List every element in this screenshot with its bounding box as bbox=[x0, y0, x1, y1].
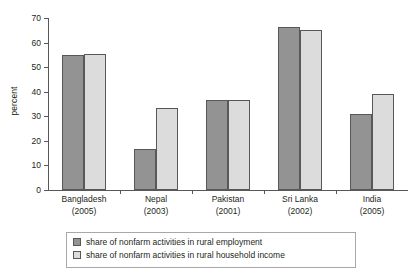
x-category-name: Bangladesh bbox=[62, 194, 107, 204]
y-tick-label: 0 bbox=[36, 186, 41, 195]
y-tick-label: 20 bbox=[32, 137, 41, 146]
x-tick-label: Sri Lanka(2002) bbox=[264, 194, 336, 217]
bar bbox=[62, 55, 84, 190]
bar-group bbox=[48, 18, 120, 190]
y-tick-label: 40 bbox=[32, 87, 41, 96]
bar bbox=[228, 100, 250, 190]
legend-item-employment: share of nonfarm activities in rural emp… bbox=[73, 237, 349, 247]
plot-area: 010203040506070 bbox=[48, 18, 408, 190]
x-category-year: (2002) bbox=[264, 206, 336, 218]
legend-swatch-icon bbox=[73, 238, 81, 246]
legend-item-household-income: share of nonfarm activities in rural hou… bbox=[73, 250, 349, 260]
y-tick-label: 70 bbox=[32, 14, 41, 23]
x-tick-label: Pakistan(2001) bbox=[192, 194, 264, 217]
chart-legend: share of nonfarm activities in rural emp… bbox=[66, 232, 356, 268]
bar bbox=[372, 94, 394, 190]
bar-chart: percent 010203040506070 Bangladesh(2005)… bbox=[0, 0, 419, 279]
x-category-name: Nepal bbox=[145, 194, 167, 204]
x-category-name: Sri Lanka bbox=[282, 194, 318, 204]
bar-group bbox=[120, 18, 192, 190]
x-category-name: Pakistan bbox=[212, 194, 245, 204]
bar bbox=[278, 27, 300, 190]
x-axis-line bbox=[48, 190, 408, 191]
bar-group bbox=[336, 18, 408, 190]
y-tick-label: 50 bbox=[32, 63, 41, 72]
legend-label: share of nonfarm activities in rural emp… bbox=[86, 237, 262, 247]
legend-swatch-icon bbox=[73, 251, 81, 259]
x-tick-label: India(2005) bbox=[336, 194, 408, 217]
legend-label: share of nonfarm activities in rural hou… bbox=[86, 250, 285, 260]
bar bbox=[206, 100, 228, 190]
bar bbox=[134, 149, 156, 190]
x-tick-label: Bangladesh(2005) bbox=[48, 194, 120, 217]
y-tick-mark bbox=[44, 190, 48, 191]
x-tick-label: Nepal(2003) bbox=[120, 194, 192, 217]
x-category-year: (2003) bbox=[120, 206, 192, 218]
y-tick-label: 30 bbox=[32, 112, 41, 121]
x-category-year: (2005) bbox=[48, 206, 120, 218]
y-tick-label: 60 bbox=[32, 38, 41, 47]
bar bbox=[84, 54, 106, 190]
bar-group bbox=[264, 18, 336, 190]
bar bbox=[350, 114, 372, 190]
x-category-name: India bbox=[363, 194, 381, 204]
bar-group bbox=[192, 18, 264, 190]
bar bbox=[300, 30, 322, 190]
bar bbox=[156, 108, 178, 190]
x-category-year: (2005) bbox=[336, 206, 408, 218]
x-category-year: (2001) bbox=[192, 206, 264, 218]
y-tick-label: 10 bbox=[32, 161, 41, 170]
x-axis-labels: Bangladesh(2005)Nepal(2003)Pakistan(2001… bbox=[48, 194, 408, 224]
y-axis-label: percent bbox=[9, 71, 19, 131]
